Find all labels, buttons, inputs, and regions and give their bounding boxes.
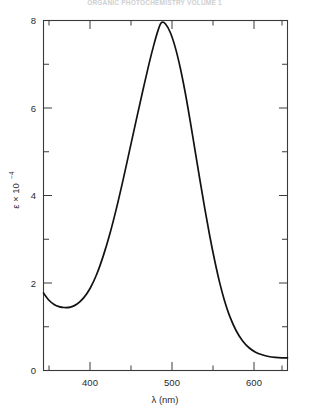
spectrum-curve <box>44 22 288 358</box>
y-axis-major-ticks <box>44 21 53 371</box>
y-tick-label-0: 0 <box>31 365 36 376</box>
y-tick-label-6: 6 <box>31 103 36 114</box>
x-axis-title: λ (nm) <box>152 394 179 405</box>
spectrum-plot: 400 500 600 0 2 4 6 8 λ (nm) ε × 10 −4 <box>0 0 309 407</box>
figure-top-caption: ORGANIC PHOTOCHEMISTRY VOLUME 1 <box>0 0 309 7</box>
y-tick-label-2: 2 <box>31 278 36 289</box>
x-axis-major-ticks <box>90 362 254 371</box>
figure-container: ORGANIC PHOTOCHEMISTRY VOLUME 1 <box>0 0 309 407</box>
y-axis-right-ticks <box>279 64 288 327</box>
y-tick-label-4: 4 <box>31 190 36 201</box>
x-tick-label-500: 500 <box>164 377 180 388</box>
y-axis-title-text: ε × 10 <box>10 183 21 209</box>
y-tick-label-8: 8 <box>31 15 36 26</box>
x-tick-label-600: 600 <box>246 377 262 388</box>
x-axis-minor-ticks <box>49 366 282 371</box>
x-tick-label-400: 400 <box>82 377 98 388</box>
y-axis-title-exponent: −4 <box>8 171 15 179</box>
plot-frame <box>44 21 288 371</box>
y-axis-title: ε × 10 −4 <box>8 171 21 209</box>
